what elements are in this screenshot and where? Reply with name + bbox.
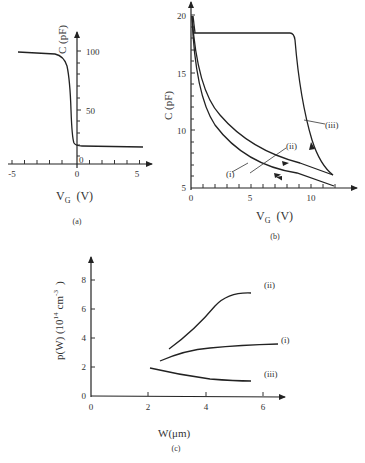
x-tick-label: 0 xyxy=(89,402,94,412)
caption: (a) xyxy=(73,217,82,226)
y-axis-label: p(W) (1014cm-3) xyxy=(52,281,66,360)
y-tick-label: 50 xyxy=(86,106,96,116)
curve-ii xyxy=(192,16,333,175)
x-tick-label: 10 xyxy=(307,193,317,203)
y-tick-label: 15 xyxy=(177,69,187,79)
y-tick-label: 6 xyxy=(82,304,87,314)
y-tick-label: 0 xyxy=(82,391,87,401)
curve-i xyxy=(192,16,334,186)
x-tick-label: 5 xyxy=(135,169,140,179)
caption: (c) xyxy=(172,444,181,453)
y-tick-label: 2 xyxy=(82,362,87,372)
x-tick-label: 0 xyxy=(189,193,194,203)
x-tick-label: 0 xyxy=(75,169,80,179)
curve-iii xyxy=(193,33,333,175)
figure-canvas: -5 0 5 100 50 0 C (pF) VG(V) (a) xyxy=(0,0,365,463)
curve-iii xyxy=(150,368,251,381)
x-axis-label: W(μm) xyxy=(158,427,190,440)
label-i: (i) xyxy=(281,335,290,345)
x-tick-label: 2 xyxy=(146,402,151,412)
y-tick-label: 10 xyxy=(177,126,187,136)
label-ii: (ii) xyxy=(286,141,297,151)
arrow-ii xyxy=(282,161,289,166)
cv-curve xyxy=(18,52,143,147)
x-tick-label: 4 xyxy=(204,402,209,412)
y-tick-label: 0 xyxy=(79,155,84,165)
x-tick-label: 6 xyxy=(261,402,266,412)
label-ii: (ii) xyxy=(264,280,275,290)
y-tick-label: 20 xyxy=(177,11,187,21)
x-tick-label: -5 xyxy=(8,169,16,179)
caption: (b) xyxy=(270,232,280,241)
chart-a: -5 0 5 100 50 0 C (pF) VG(V) (a) xyxy=(8,25,152,226)
x-axis xyxy=(91,396,285,397)
curve-i xyxy=(160,344,278,361)
label-iii: (iii) xyxy=(264,369,278,379)
chart-c: (ii) (i) (iii) 0 2 4 6 0 2 4 6 8 p(W) (1… xyxy=(52,257,290,453)
x-axis-label: VG(V) xyxy=(56,189,93,205)
y-tick-label: 8 xyxy=(82,275,87,285)
y-tick-label: 5 xyxy=(182,183,187,193)
y-tick-label: 4 xyxy=(82,333,87,343)
y-axis-label: C (pF) xyxy=(56,25,69,54)
x-axis-label: VG(V) xyxy=(256,209,293,225)
label-iii: (iii) xyxy=(325,120,339,130)
chart-b: (i) (ii) (iii) 0 5 10 20 15 10 5 C (pF) … xyxy=(162,2,357,241)
label-i: (i) xyxy=(226,169,235,179)
y-axis-label: C (pF) xyxy=(162,91,175,120)
x-ticks xyxy=(148,392,263,396)
curve-ii xyxy=(169,293,251,349)
y-tick-label: 100 xyxy=(86,47,100,57)
x-tick-label: 5 xyxy=(248,193,253,203)
